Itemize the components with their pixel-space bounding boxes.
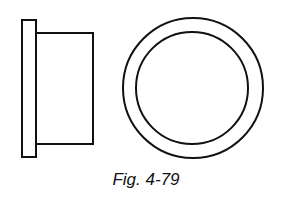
- figure-caption: Fig. 4-79: [0, 170, 292, 190]
- outer-circle: [123, 18, 263, 158]
- flange-rect: [22, 20, 36, 157]
- inner-circle: [136, 32, 248, 144]
- side-view: [22, 20, 93, 157]
- body-rect: [36, 33, 93, 144]
- end-view: [123, 18, 263, 158]
